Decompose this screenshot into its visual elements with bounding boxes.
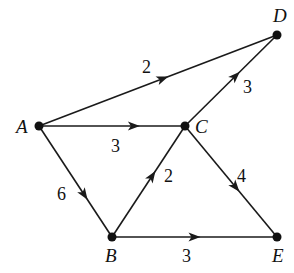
node-label-E: E (271, 245, 284, 266)
node-A (35, 122, 44, 131)
edge-C-E (185, 126, 277, 237)
nodes-layer (35, 31, 282, 242)
edge-weight-A-C: 3 (111, 136, 120, 156)
edge-weight-B-C: 2 (164, 166, 173, 186)
node-label-D: D (272, 5, 287, 26)
edge-weight-B-E: 3 (182, 246, 191, 266)
arrowhead-icon (145, 168, 159, 183)
network-diagram: 2362343 ABCDE (0, 0, 294, 273)
node-label-A: A (14, 116, 28, 137)
edges-layer (39, 35, 277, 237)
node-B (108, 233, 117, 242)
node-label-B: B (105, 245, 117, 266)
labels-layer: ABCDE (14, 5, 287, 266)
arrows-layer (77, 69, 243, 242)
edge-weight-A-D: 2 (142, 57, 151, 77)
arrowhead-icon (156, 72, 170, 85)
edge-weight-A-B: 6 (57, 184, 66, 204)
edge-A-B (39, 126, 112, 237)
edge-A-D (39, 35, 277, 126)
node-C (181, 122, 190, 131)
edge-weight-C-D: 3 (243, 77, 252, 97)
node-label-C: C (195, 116, 208, 137)
edge-B-C (112, 126, 185, 237)
node-D (273, 31, 282, 40)
edge-weight-C-E: 4 (237, 166, 246, 186)
arrowhead-icon (77, 187, 91, 202)
node-E (273, 233, 282, 242)
edge-C-D (185, 35, 277, 126)
